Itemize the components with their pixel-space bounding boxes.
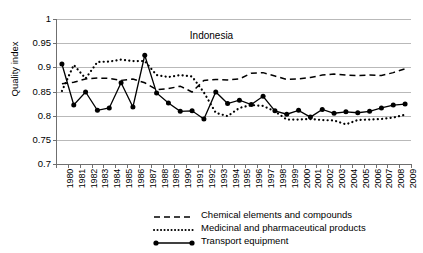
x-tick-label: 1981 bbox=[78, 169, 87, 188]
data-point-marker bbox=[391, 103, 396, 108]
data-point-marker bbox=[284, 112, 289, 117]
legend-key-dashed bbox=[152, 209, 196, 221]
data-point-marker bbox=[237, 98, 242, 103]
x-tick-mark bbox=[210, 164, 211, 168]
x-tick-mark bbox=[293, 164, 294, 168]
x-tick-label: 2006 bbox=[374, 169, 383, 188]
x-tick-label: 2008 bbox=[397, 169, 406, 188]
y-tick-label: 1 bbox=[46, 14, 51, 24]
data-point-marker bbox=[332, 111, 337, 116]
x-tick-mark bbox=[92, 164, 93, 168]
data-point-marker bbox=[355, 110, 360, 115]
x-tick-label: 2003 bbox=[338, 169, 347, 188]
x-tick-label: 1987 bbox=[149, 169, 158, 188]
legend-label: Chemical elements and compounds bbox=[201, 209, 352, 220]
x-tick-label: 2007 bbox=[385, 169, 394, 188]
y-tick-label: 0.75 bbox=[33, 135, 52, 145]
x-tick-label: 1995 bbox=[243, 169, 252, 188]
chart-container: Quality index Indonesia 10.950.90.850.80… bbox=[0, 0, 423, 253]
x-tick-mark bbox=[387, 164, 388, 168]
x-tick-mark bbox=[68, 164, 69, 168]
data-point-marker bbox=[59, 61, 64, 66]
x-tick-label: 1983 bbox=[101, 169, 110, 188]
x-tick-label: 1980 bbox=[66, 169, 75, 188]
x-tick-label: 2004 bbox=[350, 169, 359, 188]
data-point-marker bbox=[343, 109, 348, 114]
x-tick-mark bbox=[411, 164, 412, 168]
x-tick-mark bbox=[127, 164, 128, 168]
x-tick-mark bbox=[257, 164, 258, 168]
x-tick-label: 2005 bbox=[362, 169, 371, 188]
x-axis-line bbox=[56, 164, 411, 165]
data-point-marker bbox=[130, 104, 135, 109]
data-point-marker bbox=[261, 94, 266, 99]
series-line bbox=[62, 69, 405, 92]
data-point-marker bbox=[178, 109, 183, 114]
data-point-marker bbox=[213, 89, 218, 94]
x-tick-label: 1998 bbox=[279, 169, 288, 188]
x-tick-mark bbox=[376, 164, 377, 168]
data-point-marker bbox=[95, 108, 100, 113]
data-point-marker bbox=[142, 53, 147, 58]
data-point-marker bbox=[403, 102, 408, 107]
x-tick-mark bbox=[364, 164, 365, 168]
series-layer bbox=[56, 19, 411, 164]
legend-key-dotted bbox=[152, 222, 196, 234]
x-tick-mark bbox=[281, 164, 282, 168]
x-tick-mark bbox=[80, 164, 81, 168]
data-point-marker bbox=[272, 108, 277, 113]
x-tick-label: 1993 bbox=[220, 169, 229, 188]
x-tick-mark bbox=[56, 164, 57, 168]
data-point-marker bbox=[379, 105, 384, 110]
legend-label: Medicinal and pharmaceutical products bbox=[201, 222, 366, 233]
x-tick-label: 1999 bbox=[291, 169, 300, 188]
x-tick-mark bbox=[245, 164, 246, 168]
x-tick-label: 1989 bbox=[172, 169, 181, 188]
x-tick-label: 1986 bbox=[137, 169, 146, 188]
data-point-marker bbox=[166, 101, 171, 106]
legend-key-solid-marker bbox=[152, 235, 196, 247]
x-tick-mark bbox=[198, 164, 199, 168]
y-tick-label: 0.95 bbox=[33, 38, 52, 48]
x-tick-label: 1982 bbox=[90, 169, 99, 188]
y-tick-label: 0.85 bbox=[33, 87, 52, 97]
x-tick-mark bbox=[328, 164, 329, 168]
data-point-marker bbox=[154, 90, 159, 95]
x-axis-labels: 1980198119821983198419851986198719881989… bbox=[56, 169, 411, 203]
x-tick-label: 1991 bbox=[196, 169, 205, 188]
y-tick-label: 0.7 bbox=[38, 159, 51, 169]
legend-item: Medicinal and pharmaceutical products bbox=[152, 221, 422, 234]
x-tick-label: 1994 bbox=[232, 169, 241, 188]
x-tick-label: 1984 bbox=[113, 169, 122, 188]
data-point-marker bbox=[83, 89, 88, 94]
data-point-marker bbox=[107, 105, 112, 110]
series-line bbox=[62, 60, 405, 125]
data-point-marker bbox=[71, 103, 76, 108]
x-tick-mark bbox=[340, 164, 341, 168]
x-tick-mark bbox=[399, 164, 400, 168]
series-line bbox=[62, 55, 405, 119]
x-tick-label: 1992 bbox=[208, 169, 217, 188]
x-tick-mark bbox=[305, 164, 306, 168]
x-tick-label: 2000 bbox=[303, 169, 312, 188]
x-tick-mark bbox=[151, 164, 152, 168]
x-tick-label: 1990 bbox=[184, 169, 193, 188]
legend: Chemical elements and compoundsMedicinal… bbox=[152, 208, 422, 247]
y-tick-label: 0.9 bbox=[38, 63, 51, 73]
x-tick-label: 1996 bbox=[255, 169, 264, 188]
data-point-marker bbox=[249, 102, 254, 107]
data-point-marker bbox=[367, 109, 372, 114]
data-point-marker bbox=[190, 108, 195, 113]
x-tick-mark bbox=[222, 164, 223, 168]
x-tick-label: 2002 bbox=[326, 169, 335, 188]
x-tick-mark bbox=[103, 164, 104, 168]
legend-item: Transport equipment bbox=[152, 234, 422, 247]
x-tick-mark bbox=[316, 164, 317, 168]
legend-item: Chemical elements and compounds bbox=[152, 208, 422, 221]
x-tick-label: 2009 bbox=[409, 169, 418, 188]
x-tick-mark bbox=[174, 164, 175, 168]
data-point-marker bbox=[119, 80, 124, 85]
x-tick-mark bbox=[234, 164, 235, 168]
x-tick-label: 1988 bbox=[161, 169, 170, 188]
data-point-marker bbox=[201, 117, 206, 122]
